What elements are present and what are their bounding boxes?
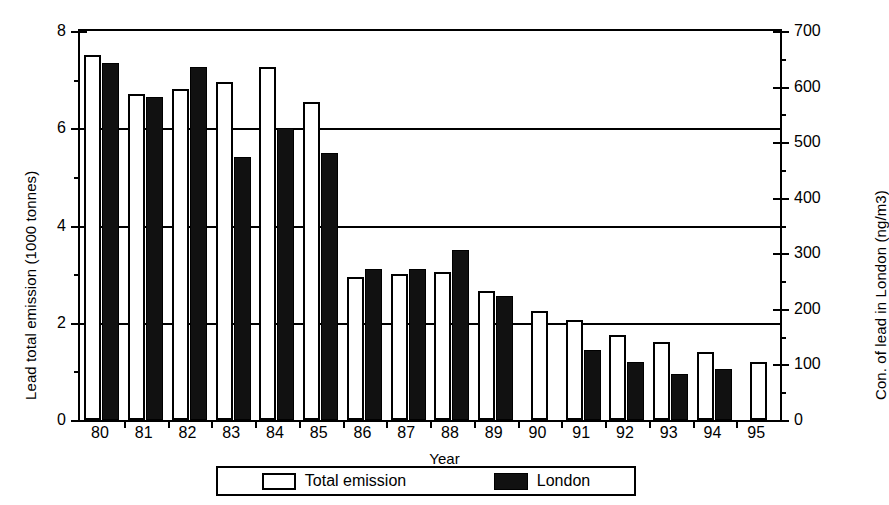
left-axis-major-tick (71, 31, 80, 33)
x-axis-tick-label-80: 80 (91, 424, 109, 442)
x-axis-tick-label-89: 89 (485, 424, 503, 442)
bar-group (80, 31, 780, 420)
right-axis-major-tick (780, 364, 789, 366)
bar-total-emission-89 (478, 291, 495, 420)
bar-total-emission-81 (128, 94, 145, 420)
right-axis-tick-label: 500 (794, 134, 821, 150)
bar-london-86 (365, 269, 382, 420)
x-axis-tick-label-93: 93 (660, 424, 678, 442)
bar-london-92 (627, 362, 644, 420)
bar-total-emission-90 (531, 311, 548, 420)
x-axis-title: Year (0, 450, 889, 467)
right-axis-minor-tick (780, 59, 786, 61)
bar-london-91 (584, 350, 601, 421)
right-axis-tick-label: 300 (794, 245, 821, 261)
bar-london-88 (452, 250, 469, 420)
bar-total-emission-88 (434, 272, 451, 420)
x-axis-tick-label-87: 87 (397, 424, 415, 442)
x-axis-tick-label-94: 94 (703, 424, 721, 442)
chart-figure: Lead total emission (1000 tonnes) Con. o… (0, 0, 889, 505)
left-axis-tick-label: 4 (57, 218, 66, 234)
right-axis-major-tick (780, 31, 789, 33)
right-axis-minor-tick (780, 337, 786, 339)
left-axis-major-tick (71, 323, 80, 325)
left-axis-major-tick (71, 226, 80, 228)
bar-total-emission-84 (259, 67, 276, 420)
plot-area: 02468 0100200300400500600700 (78, 29, 782, 422)
left-axis-tick-label: 2 (57, 315, 66, 331)
chart-legend: Total emissionLondon (216, 466, 636, 496)
left-axis-major-tick (71, 420, 80, 422)
bar-total-emission-92 (609, 335, 626, 420)
right-axis-tick-label: 600 (794, 79, 821, 95)
x-axis-tick-labels: 80818283848586878889909192939495 (78, 424, 778, 446)
right-axis-minor-tick (780, 226, 786, 228)
x-axis-tick-label-95: 95 (747, 424, 765, 442)
bar-total-emission-83 (216, 82, 233, 420)
legend-entry-london: London (494, 472, 590, 490)
x-axis-tick-label-86: 86 (353, 424, 371, 442)
left-axis-inner-tick (80, 420, 87, 422)
right-axis-major-tick (780, 253, 789, 255)
right-axis-major-tick (780, 309, 789, 311)
legend-entry-total-emission: Total emission (262, 472, 406, 490)
x-axis-tick-label-91: 91 (572, 424, 590, 442)
legend-label: Total emission (305, 472, 406, 490)
bar-total-emission-82 (172, 89, 189, 420)
bar-london-81 (146, 97, 163, 420)
bar-total-emission-85 (303, 102, 320, 420)
x-axis-tick-label-83: 83 (222, 424, 240, 442)
bar-london-89 (496, 296, 513, 420)
bar-total-emission-94 (697, 352, 714, 420)
x-axis-tick-label-81: 81 (135, 424, 153, 442)
right-axis-major-tick (780, 87, 789, 89)
bar-total-emission-80 (84, 55, 101, 420)
right-axis-major-tick (780, 142, 789, 144)
right-axis-minor-tick (780, 281, 786, 283)
bar-total-emission-91 (566, 320, 583, 420)
x-axis-tick-label-84: 84 (266, 424, 284, 442)
x-axis-tick-label-90: 90 (528, 424, 546, 442)
bar-london-83 (234, 157, 251, 420)
bar-total-emission-93 (653, 342, 670, 420)
bar-london-80 (102, 63, 119, 420)
bar-london-94 (715, 369, 732, 420)
left-axis-major-tick (71, 128, 80, 130)
right-axis-title: Con. of lead in London (ng/m3) (872, 190, 889, 400)
bar-london-87 (409, 269, 426, 420)
legend-label: London (537, 472, 590, 490)
bar-london-82 (190, 67, 207, 420)
bar-london-93 (671, 374, 688, 420)
right-axis-tick-label: 400 (794, 190, 821, 206)
right-axis-minor-tick (780, 114, 786, 116)
right-axis-tick-label: 700 (794, 23, 821, 39)
x-axis-tick-label-82: 82 (178, 424, 196, 442)
bar-total-emission-95 (750, 362, 767, 420)
left-axis-tick-label: 8 (57, 23, 66, 39)
right-axis-tick-label: 100 (794, 356, 821, 372)
x-axis-tick-label-85: 85 (310, 424, 328, 442)
right-axis-inner-tick (773, 420, 780, 422)
left-axis-title: Lead total emission (1000 tonnes) (22, 171, 39, 400)
x-axis-tick-label-92: 92 (616, 424, 634, 442)
bar-london-85 (321, 153, 338, 420)
right-axis-major-tick (780, 420, 789, 422)
right-axis-tick-label: 200 (794, 301, 821, 317)
legend-swatch-icon (262, 473, 296, 490)
bar-london-84 (277, 128, 294, 420)
legend-swatch-icon (494, 473, 528, 490)
right-axis-minor-tick (780, 170, 786, 172)
right-axis-tick-label: 0 (794, 412, 803, 428)
x-axis-tick-label-88: 88 (441, 424, 459, 442)
left-axis-tick-label: 0 (57, 412, 66, 428)
right-axis-minor-tick (780, 392, 786, 394)
bar-total-emission-87 (391, 274, 408, 420)
left-axis-tick-label: 6 (57, 120, 66, 136)
bar-total-emission-86 (347, 277, 364, 420)
right-axis-major-tick (780, 198, 789, 200)
